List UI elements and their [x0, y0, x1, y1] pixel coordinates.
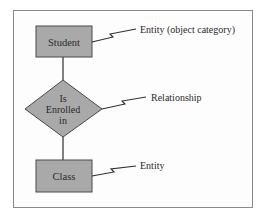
relationship-label-line-1: Is [59, 93, 66, 104]
entity-class-label: Class [53, 171, 76, 182]
callout-entity-student-line [92, 29, 136, 42]
callout-relationship-line [102, 97, 146, 109]
callout-entity-class-line [92, 166, 136, 176]
annotation-entity: Entity [140, 160, 164, 171]
annotation-entity-object-category: Entity (object category) [140, 24, 235, 36]
annotation-relationship: Relationship [151, 92, 202, 103]
entity-class: Class [36, 160, 92, 192]
er-diagram: Student Is Enrolled in Class Entity (obj… [0, 0, 268, 219]
relationship-is-enrolled-in: Is Enrolled in [25, 80, 102, 137]
entity-student: Student [36, 26, 92, 57]
relationship-label-line-2: Enrolled [46, 104, 80, 115]
entity-student-label: Student [48, 37, 80, 48]
relationship-label-line-3: in [59, 115, 67, 126]
